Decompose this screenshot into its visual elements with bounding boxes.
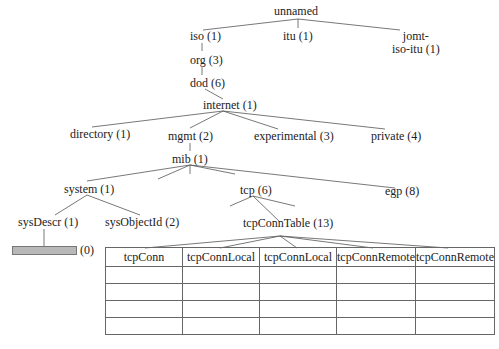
- table-row: [106, 301, 495, 318]
- node-tcpConnTable: tcpConnTable (13): [243, 217, 333, 230]
- node-joint-line2: iso-itu (1): [392, 43, 440, 56]
- node-unnamed: unnamed: [274, 5, 318, 18]
- column-header: tcpConnRemote: [337, 248, 416, 267]
- table-row: [106, 318, 495, 335]
- table-cell: [106, 267, 183, 284]
- node-private: private (4): [371, 130, 421, 143]
- table-cell: [260, 301, 337, 318]
- node-dod: dod (6): [190, 77, 225, 90]
- table-cell: [337, 318, 416, 335]
- table-cell: [260, 318, 337, 335]
- node-org: org (3): [190, 54, 223, 67]
- table-cell: [260, 267, 337, 284]
- scalar-instance-bar: [12, 246, 77, 255]
- column-header: tcpConn: [106, 248, 183, 267]
- table-cell: [106, 301, 183, 318]
- table-cell: [416, 301, 495, 318]
- tcp-conn-table: tcpConn tcpConnLocal tcpConnLocal tcpCon…: [105, 247, 495, 335]
- node-system: system (1): [64, 183, 114, 196]
- table-cell: [106, 284, 183, 301]
- table-cell: [183, 267, 260, 284]
- table-cell: [183, 301, 260, 318]
- scalar-instance-label: (0): [80, 243, 94, 258]
- table-cell: [416, 267, 495, 284]
- table-cell: [416, 284, 495, 301]
- table-cell: [183, 318, 260, 335]
- table-cell: [183, 284, 260, 301]
- table-row: [106, 267, 495, 284]
- node-egp: egp (8): [385, 185, 419, 198]
- node-experimental: experimental (3): [254, 130, 334, 143]
- table-cell: [106, 318, 183, 335]
- node-joint-iso-itu: jomt- iso-itu (1): [392, 30, 440, 56]
- node-mgmt: mgmt (2): [168, 130, 213, 143]
- node-internet: internet (1): [203, 99, 257, 112]
- table-cell: [337, 267, 416, 284]
- table-cell: [260, 284, 337, 301]
- node-directory: directory (1): [70, 128, 130, 141]
- node-sysDescr: sysDescr (1): [18, 216, 78, 229]
- table-header-row: tcpConn tcpConnLocal tcpConnLocal tcpCon…: [106, 248, 495, 267]
- node-tcp: tcp (6): [240, 184, 272, 197]
- column-header: tcpConnLocal: [183, 248, 260, 267]
- node-sysObjectId: sysObjectId (2): [105, 216, 179, 229]
- table-cell: [337, 284, 416, 301]
- table-cell: [416, 318, 495, 335]
- column-header: tcpConnRemote: [416, 248, 495, 267]
- table-cell: [337, 301, 416, 318]
- column-header: tcpConnLocal: [260, 248, 337, 267]
- node-itu: itu (1): [283, 30, 313, 43]
- table-row: [106, 284, 495, 301]
- node-iso: iso (1): [190, 30, 221, 43]
- node-mib: mib (1): [172, 153, 208, 166]
